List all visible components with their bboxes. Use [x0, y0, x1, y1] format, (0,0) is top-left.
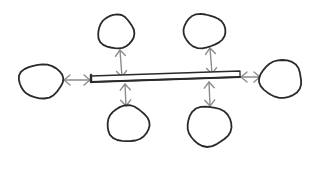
connector-arrow-top-left	[116, 50, 127, 77]
diagram-canvas	[0, 0, 322, 174]
connector-arrow-top-right	[206, 48, 217, 74]
node-top-right-circle	[184, 14, 226, 49]
connector-arrow-bottom-right	[204, 82, 214, 106]
connector-arrow-bottom-left	[120, 84, 130, 106]
bus-bar	[91, 71, 240, 82]
node-top-left-circle	[98, 14, 134, 48]
central-bus	[91, 71, 240, 82]
connector-arrow-left	[64, 75, 90, 85]
bus-topology-diagram	[0, 0, 322, 174]
connector-arrow-right	[241, 72, 260, 82]
node-right-circle	[259, 60, 301, 98]
node-bottom-right-circle	[188, 107, 232, 147]
node-left-circle	[19, 64, 63, 98]
node-bottom-left-circle	[108, 105, 150, 141]
